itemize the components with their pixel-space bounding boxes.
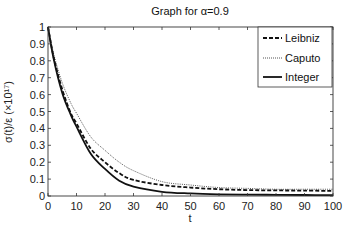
x-tick-label: 40	[156, 200, 168, 212]
y-tick-label: 0	[39, 190, 45, 202]
x-tick-label: 60	[213, 200, 225, 212]
y-axis-label: σ(t)/ε (×10¹⁷)	[2, 81, 14, 143]
x-tick-label: 10	[70, 200, 82, 212]
y-tick-label: 1	[39, 21, 45, 33]
x-tick-label: 20	[99, 200, 111, 212]
x-tick-label: 0	[45, 200, 51, 212]
legend: Leibniz Caputo Integer	[258, 27, 332, 87]
legend-label-integer: Integer	[285, 71, 320, 83]
y-tick-label: 0.8	[30, 55, 45, 67]
x-tick-label: 90	[298, 200, 310, 212]
y-tick-label: 0.1	[30, 173, 45, 185]
x-tick-label: 100	[324, 200, 342, 212]
chart-title: Graph for α=0.9	[151, 5, 229, 17]
line-chart: 010203040506070809010000.10.20.30.40.50.…	[0, 0, 350, 235]
x-tick-label: 70	[241, 200, 253, 212]
y-tick-label: 0.9	[30, 38, 45, 50]
legend-label-caputo: Caputo	[285, 52, 320, 64]
chart-container: 010203040506070809010000.10.20.30.40.50.…	[0, 0, 350, 235]
x-axis-label: t	[188, 212, 191, 224]
y-tick-label: 0.3	[30, 139, 45, 151]
y-tick-label: 0.4	[30, 122, 45, 134]
x-tick-label: 80	[270, 200, 282, 212]
y-tick-label: 0.6	[30, 89, 45, 101]
x-tick-label: 50	[184, 200, 196, 212]
y-tick-label: 0.7	[30, 72, 45, 84]
legend-label-leibniz: Leibniz	[285, 32, 320, 44]
y-tick-label: 0.2	[30, 156, 45, 168]
y-tick-label: 0.5	[30, 106, 45, 118]
x-tick-label: 30	[127, 200, 139, 212]
